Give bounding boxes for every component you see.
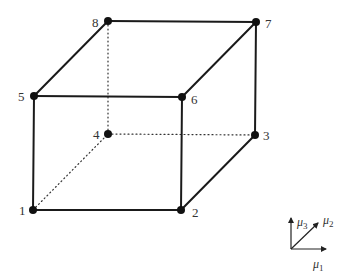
node-7 bbox=[252, 18, 260, 26]
node-6 bbox=[178, 93, 186, 101]
edge-5-1 bbox=[33, 96, 34, 210]
nodes bbox=[29, 17, 260, 214]
edge-2-6 bbox=[181, 97, 182, 210]
edge-8-7 bbox=[108, 21, 256, 22]
node-1 bbox=[29, 206, 37, 214]
hexahedron-diagram: 12345678 μ1μ2μ3 bbox=[0, 0, 351, 279]
node-label-1: 1 bbox=[19, 203, 26, 218]
solid-edges bbox=[33, 21, 256, 210]
node-label-3: 3 bbox=[263, 128, 270, 143]
node-label-6: 6 bbox=[191, 92, 198, 107]
node-label-5: 5 bbox=[18, 89, 25, 104]
mu2-axis-label: μ2 bbox=[322, 213, 334, 229]
node-4 bbox=[104, 130, 112, 138]
edge-3-2 bbox=[181, 135, 255, 210]
node-label-4: 4 bbox=[93, 127, 100, 142]
node-2 bbox=[177, 206, 185, 214]
node-label-7: 7 bbox=[265, 16, 272, 31]
edge-7-3 bbox=[255, 22, 256, 135]
node-5 bbox=[30, 92, 38, 100]
node-8 bbox=[104, 17, 112, 25]
node-label-8: 8 bbox=[92, 15, 99, 30]
node-3 bbox=[251, 131, 259, 139]
hidden-edges bbox=[33, 21, 255, 210]
coordinate-axes: μ1μ2μ3 bbox=[291, 213, 334, 273]
mu3-axis-label: μ3 bbox=[296, 215, 308, 231]
edge-5-8 bbox=[34, 21, 108, 96]
edge-6-5 bbox=[34, 96, 182, 97]
hidden-edge-1-4 bbox=[33, 134, 108, 210]
edge-7-6 bbox=[182, 22, 256, 97]
node-label-2: 2 bbox=[192, 205, 199, 220]
mu1-axis-label: μ1 bbox=[312, 257, 324, 273]
